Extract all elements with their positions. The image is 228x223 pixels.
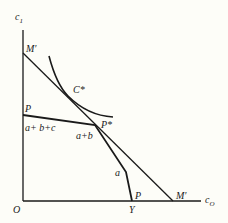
tangency-label: C*	[73, 84, 85, 95]
segment-ab-label: a+b	[76, 130, 93, 141]
production-kink-label: P*	[100, 119, 112, 130]
x-axis-label: cO	[205, 194, 215, 208]
budget-line-bottom-label: M′	[175, 190, 187, 201]
segment-abc-label: a+ b+c	[25, 122, 56, 133]
production-left-label: P	[24, 103, 31, 114]
origin-label: O	[13, 204, 20, 215]
budget-line-top-label: M′	[25, 43, 37, 54]
production-right-label: P	[134, 190, 141, 201]
segment-a-label: a	[115, 167, 120, 178]
diagram: c1 cO O M′ M′ C* P* P P Y a+ b+c a+b a	[0, 0, 228, 223]
endowment-label: Y	[129, 204, 136, 215]
y-axis-label: c1	[15, 11, 23, 25]
